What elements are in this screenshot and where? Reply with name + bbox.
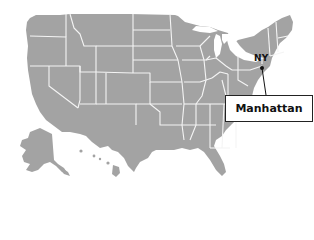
location-marker-dot[interactable] bbox=[260, 66, 264, 70]
alaska-landmass bbox=[20, 128, 68, 174]
state-label-ny: NY bbox=[254, 53, 268, 63]
hawaii-kauai bbox=[79, 149, 82, 152]
hawaii-maui bbox=[106, 161, 109, 164]
hawaii-molokai bbox=[99, 158, 101, 160]
alaska-panhandle bbox=[56, 164, 70, 176]
hawaii-big-island bbox=[112, 165, 120, 177]
callout-leader-line bbox=[262, 68, 266, 95]
location-callout[interactable]: Manhattan bbox=[225, 95, 313, 122]
hawaii-oahu bbox=[93, 155, 96, 158]
callout-label: Manhattan bbox=[235, 102, 302, 115]
